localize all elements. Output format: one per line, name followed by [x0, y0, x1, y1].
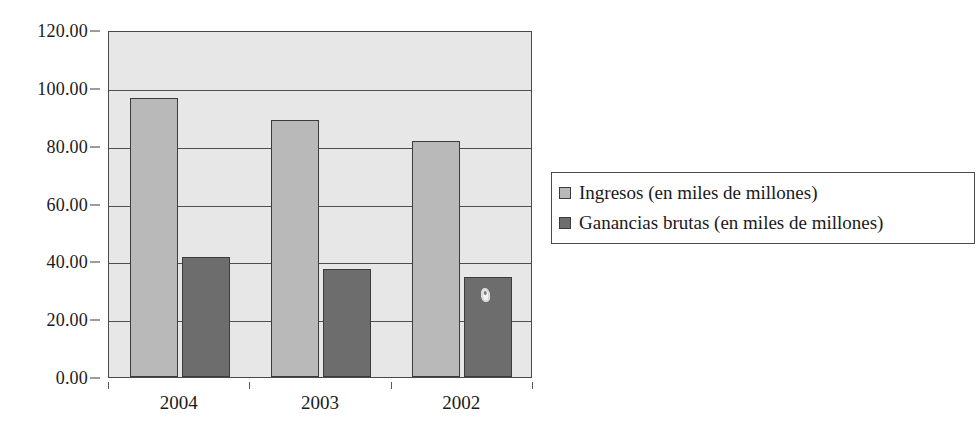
y-tick-label: 60.00	[47, 196, 89, 214]
y-tick-mark	[90, 31, 100, 32]
bar-chart-figure: 0.0020.0040.0060.0080.00100.00120.00 200…	[0, 0, 980, 439]
bar-2003-series-1	[323, 269, 371, 377]
y-tick-label: 20.00	[47, 311, 89, 329]
y-tick-label: 100.00	[37, 80, 88, 98]
y-tick-mark	[90, 378, 100, 379]
x-tick-mark	[532, 382, 533, 389]
chart-title	[0, 0, 545, 4]
y-tick-mark	[90, 320, 100, 321]
legend-swatch-icon	[559, 187, 571, 199]
y-tick-mark	[90, 146, 100, 147]
x-tick-label-2003: 2003	[301, 392, 339, 414]
gridline	[109, 90, 531, 91]
y-tick-label: 40.00	[47, 253, 89, 271]
legend-label: Ganancias brutas (en miles de millones)	[579, 212, 883, 234]
bar-2003-series-0	[271, 120, 319, 377]
bar-2002-series-0	[412, 141, 460, 377]
y-tick-label: 80.00	[47, 138, 89, 156]
x-tick-label-2002: 2002	[442, 392, 480, 414]
x-tick-mark	[108, 382, 109, 389]
y-tick-mark	[90, 88, 100, 89]
chart-legend: Ingresos (en miles de millones)Ganancias…	[551, 172, 975, 244]
x-tick-label-2004: 2004	[160, 392, 198, 414]
x-tick-mark	[249, 382, 250, 389]
y-tick-label: 120.00	[37, 22, 88, 40]
legend-entry-1: Ganancias brutas (en miles de millones)	[559, 208, 966, 238]
legend-label: Ingresos (en miles de millones)	[579, 182, 818, 204]
y-tick-mark	[90, 262, 100, 263]
x-tick-mark	[391, 382, 392, 389]
y-tick-mark	[90, 204, 100, 205]
legend-swatch-icon	[559, 217, 571, 229]
y-axis: 0.0020.0040.0060.0080.00100.00120.00	[0, 31, 100, 378]
plot-area	[108, 31, 532, 378]
y-tick-label: 0.00	[56, 369, 88, 387]
legend-entry-0: Ingresos (en miles de millones)	[559, 178, 966, 208]
bar-2004-series-1	[182, 257, 230, 377]
x-axis: 200420032002	[108, 382, 532, 422]
bar-2004-series-0	[130, 98, 178, 377]
